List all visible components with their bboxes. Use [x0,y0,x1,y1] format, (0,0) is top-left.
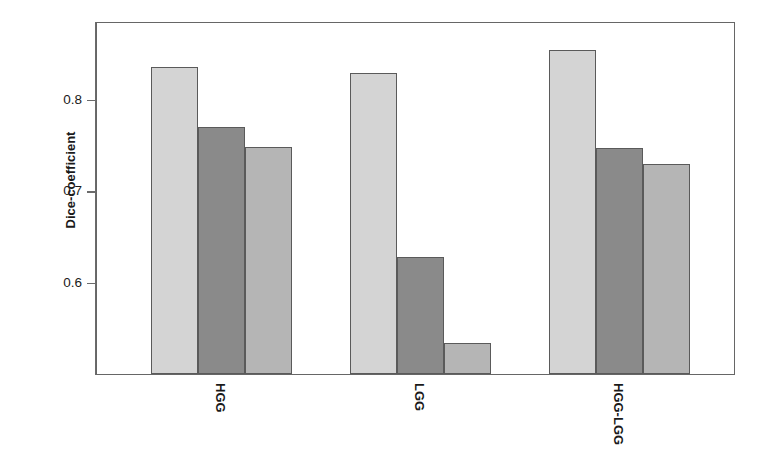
bar-chart-figure: Dice-coefficient 0.60.70.8 HGGLGGHGG-LGG [0,0,773,466]
bar [549,50,596,374]
y-axis-tick-label: 0.6 [52,275,82,290]
x-axis-tick-label: HGG-LGG [611,383,626,445]
x-axis-tick-label: HGG [213,383,228,413]
y-axis-tick [87,100,96,102]
bar [151,67,198,374]
y-axis-tick-label: 0.7 [52,183,82,198]
y-axis-title: Dice-coefficient [63,132,78,229]
bar [643,164,690,374]
bar [245,147,292,374]
bar [596,148,643,374]
y-axis-tick-label: 0.8 [52,92,82,107]
plot-area [96,22,735,375]
bar [350,73,397,374]
x-axis-tick-label: LGG [412,383,427,411]
bar [397,257,444,374]
y-axis-tick [87,191,96,193]
bar [198,127,245,374]
y-axis-tick [87,283,96,285]
bar [444,343,491,374]
